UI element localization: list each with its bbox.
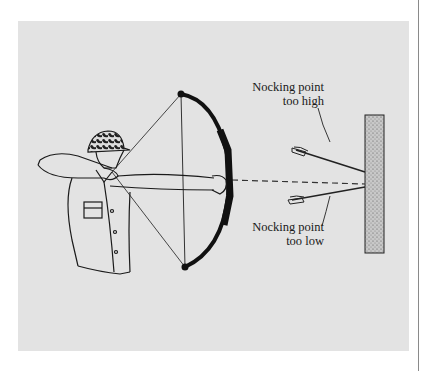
arrow-low-icon xyxy=(288,187,365,204)
arrow-high-icon xyxy=(292,147,365,172)
bow-icon xyxy=(112,91,230,271)
label-low-line2: too low xyxy=(238,234,324,248)
label-low-line1: Nocking point xyxy=(238,220,324,234)
target-icon xyxy=(365,115,384,253)
archer-figure xyxy=(38,131,226,274)
leader-line-high xyxy=(318,108,330,142)
label-nocking-high: Nocking point too high xyxy=(238,80,324,108)
label-high-line1: Nocking point xyxy=(238,80,324,94)
aim-line xyxy=(232,180,365,184)
label-nocking-low: Nocking point too low xyxy=(238,220,324,248)
archery-illustration xyxy=(0,0,434,371)
label-high-line2: too high xyxy=(238,94,324,108)
